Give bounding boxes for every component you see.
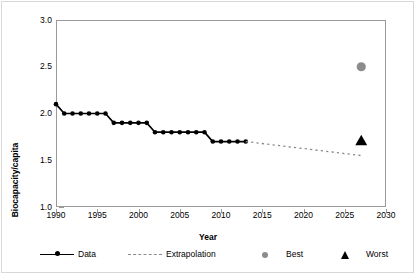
chart-root: 3.0 2.5 2.0 1.5 1.0 Biocapacity/capita xyxy=(0,0,416,274)
legend-label: Best xyxy=(286,249,303,259)
x-tick-label: 2010 xyxy=(212,211,231,220)
x-axis-title: Year xyxy=(0,232,416,242)
x-tick-label: 2015 xyxy=(253,211,272,220)
legend-key-line-with-marker xyxy=(40,248,74,260)
chart-legend: Data Extrapolation Best Worst xyxy=(40,247,380,267)
worst-marker xyxy=(355,135,367,146)
x-tick-label: 1995 xyxy=(88,211,107,220)
y-axis-title: Biocapacity/capita xyxy=(10,125,20,235)
x-tick-label: 2025 xyxy=(335,211,354,220)
legend-item-best[interactable]: Best xyxy=(248,247,303,261)
legend-label: Data xyxy=(78,249,96,259)
x-tick-label: 2005 xyxy=(170,211,189,220)
plot-area xyxy=(56,20,386,207)
x-tick-label: 2020 xyxy=(294,211,313,220)
data-line xyxy=(56,104,246,141)
y-tick-label: 2.0 xyxy=(12,109,52,118)
x-tick-label: 2000 xyxy=(129,211,148,220)
legend-item-data[interactable]: Data xyxy=(40,247,96,261)
extrapolation-line xyxy=(246,142,362,156)
data-series-layer xyxy=(56,20,386,207)
legend-item-extrapolation[interactable]: Extrapolation xyxy=(128,247,216,261)
legend-key-black-triangle xyxy=(328,248,362,260)
legend-label: Worst xyxy=(366,249,388,259)
legend-key-gray-circle xyxy=(248,248,282,260)
x-tick-label: 1990 xyxy=(47,211,66,220)
data-markers xyxy=(54,102,248,144)
legend-label: Extrapolation xyxy=(166,249,216,259)
legend-key-dashed-line xyxy=(128,248,162,260)
y-tick-label: 3.0 xyxy=(12,16,52,25)
y-tick-label: 2.5 xyxy=(12,62,52,71)
best-marker xyxy=(357,62,366,71)
x-axis-tick-labels: 1990 1995 2000 2005 2010 2015 2020 2025 … xyxy=(56,209,386,225)
legend-item-worst[interactable]: Worst xyxy=(328,247,388,261)
x-tick-label: 2030 xyxy=(377,211,396,220)
y-tick-mark xyxy=(59,207,64,208)
